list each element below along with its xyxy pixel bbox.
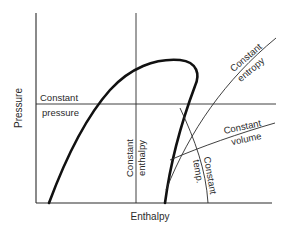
x-axis-label: Enthalpy (131, 211, 170, 222)
constant-temp-line (180, 108, 208, 203)
constant-enthalpy-label-1: Constant (124, 139, 135, 177)
constant-pressure-label-1: Constant (40, 92, 78, 103)
constant-pressure-label-2: pressure (42, 107, 79, 118)
pressure-enthalpy-diagram: Pressure Enthalpy Constant pressure Cons… (0, 0, 285, 228)
saturation-dome-curve (49, 60, 197, 203)
constant-enthalpy-label-2: enthalpy (136, 140, 147, 176)
y-axis-label: Pressure (13, 88, 24, 128)
